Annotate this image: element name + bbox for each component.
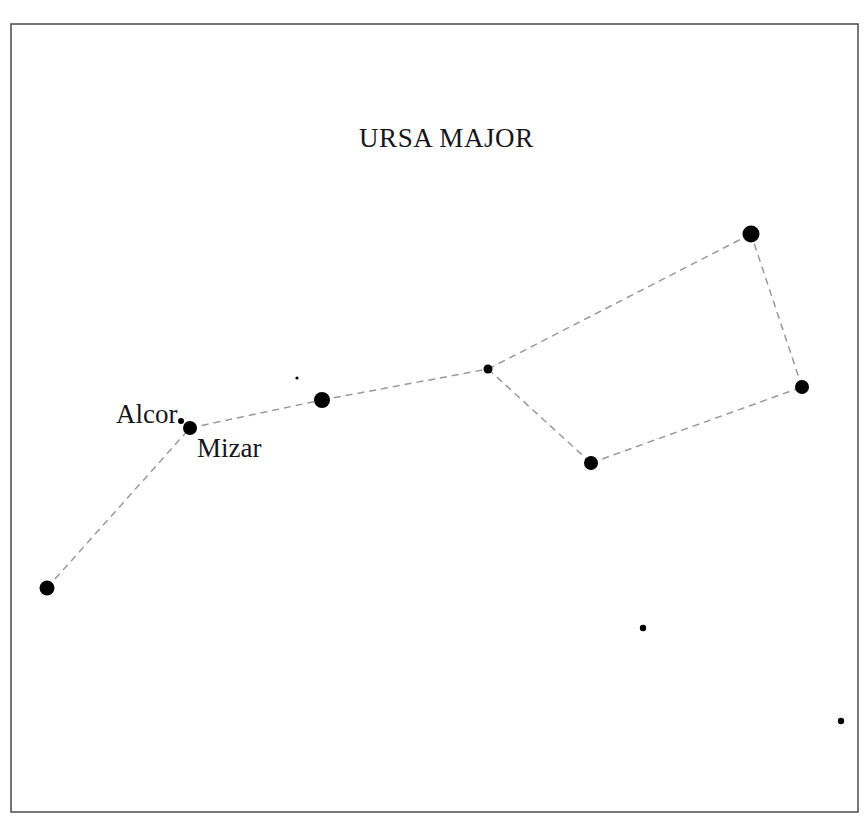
constellation-line-megrez-dubhe [488, 234, 751, 369]
star-field-star-3 [838, 718, 844, 724]
star-field-star-1 [295, 376, 298, 379]
star-phecda [584, 456, 598, 470]
constellation-line-megrez-phecda [488, 369, 591, 463]
star-label-alcor: Alcor [116, 401, 177, 428]
star-chart: URSA MAJOR Alcor Mizar [0, 0, 867, 834]
star-dubhe [743, 226, 760, 243]
constellation-line-merak-dubhe [751, 234, 802, 387]
star-merak [795, 380, 809, 394]
star-alcor [178, 418, 184, 424]
star-field-star-2 [640, 625, 646, 631]
star-alkaid [40, 581, 55, 596]
constellation-line-phecda-merak [591, 387, 802, 463]
star-points [40, 226, 845, 725]
star-mizar [183, 421, 197, 435]
star-alioth [314, 392, 330, 408]
chart-title: URSA MAJOR [359, 125, 534, 152]
star-megrez [484, 365, 493, 374]
star-label-mizar: Mizar [197, 435, 261, 462]
constellation-line-alkaid-mizar [47, 428, 190, 588]
constellation-line-alioth-megrez [322, 369, 488, 400]
constellation-line-mizar-alioth [190, 400, 322, 428]
